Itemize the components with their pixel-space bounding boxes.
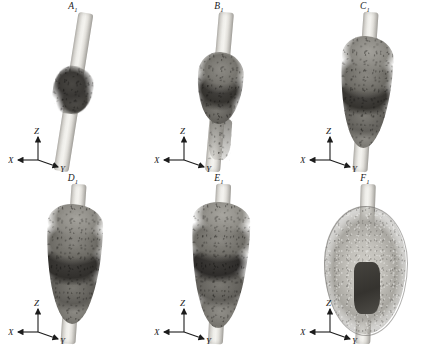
axis-label-x-f1: X [300,327,306,337]
coordinate-axes-d1: Z X Y [8,296,70,346]
panel-a1: A1 Z X Y [0,0,146,176]
axis-label-z-e1: Z [180,298,186,308]
axis-label-z-f1: Z [326,298,332,308]
axis-label-z-c1: Z [326,126,332,136]
axis-label-y-f1: Y [352,336,358,346]
axis-label-x-a1: X [8,155,14,165]
axis-label-x-e1: X [154,327,160,337]
specimen-deposit-a1 [50,64,96,117]
panel-b1: B1 Z X Y [146,0,292,176]
axis-label-x-c1: X [300,155,306,165]
specimen-deposit-b1 [195,50,246,125]
coordinate-axes-a1: Z X Y [8,124,70,174]
axis-label-z-d1: Z [34,298,40,308]
coordinate-axes-e1: Z X Y [154,296,216,346]
axis-label-z-a1: Z [34,126,40,136]
coordinate-axes-c1: Z X Y [300,124,362,174]
figure-root: A1 Z X Y [0,0,439,353]
panel-f1: F1 Z X Y [292,172,438,348]
axis-label-y-e1: Y [206,336,212,346]
panel-d1: D1 Z X Y [0,172,146,348]
axis-label-y-d1: Y [60,336,66,346]
axis-label-z-b1: Z [180,126,186,136]
deposit-texture-a1 [50,64,96,117]
panel-c1: C1 Z X Y [292,0,438,176]
coordinate-axes-b1: Z X Y [154,124,216,174]
coordinate-axes-f1: Z X Y [300,296,362,346]
panel-e1: E1 Z X Y [146,172,292,348]
deposit-texture-b1 [195,50,246,125]
axis-label-x-b1: X [154,155,160,165]
axis-label-x-d1: X [8,327,14,337]
